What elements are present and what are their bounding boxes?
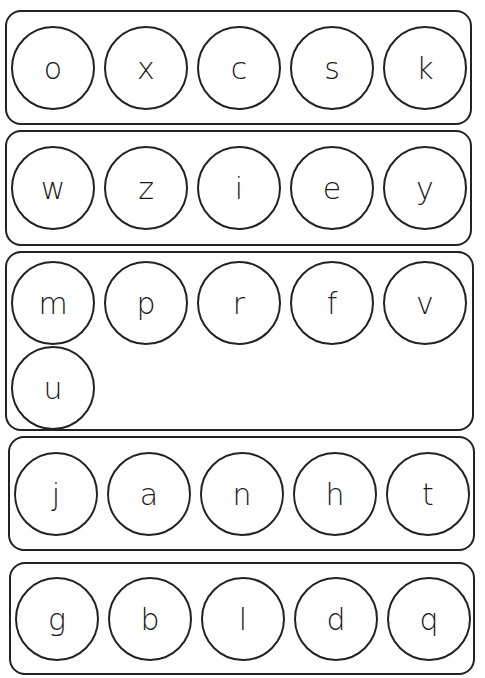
- letter-circle: o: [11, 26, 95, 110]
- letter-label: c: [231, 54, 248, 84]
- letter-circle: f: [290, 261, 374, 345]
- letter-circle: r: [197, 261, 281, 345]
- letter-label: e: [323, 174, 341, 204]
- letter-label: y: [416, 174, 434, 204]
- letter-circle: p: [104, 261, 188, 345]
- letter-circle: z: [104, 146, 188, 230]
- letter-group-2: wziey: [5, 130, 472, 246]
- letter-label: d: [326, 605, 345, 635]
- letter-circle: w: [11, 146, 95, 230]
- letter-circle: j: [14, 452, 98, 536]
- letter-circle: m: [11, 261, 95, 345]
- letter-label: z: [138, 174, 154, 204]
- letter-label: r: [233, 289, 245, 319]
- letter-circle: d: [294, 577, 378, 661]
- letter-label: o: [44, 54, 62, 84]
- letter-label: p: [136, 289, 155, 319]
- letter-label: q: [419, 605, 438, 635]
- letter-circle: l: [201, 577, 285, 661]
- letter-label: l: [239, 605, 247, 635]
- letter-circle: k: [383, 26, 467, 110]
- letter-group-5: gbldq: [9, 562, 475, 675]
- letter-circle: g: [15, 577, 99, 661]
- letter-circle: v: [383, 261, 467, 345]
- letter-label: b: [140, 605, 159, 635]
- letter-circle: q: [387, 577, 471, 661]
- letter-circle: a: [107, 452, 191, 536]
- letter-label: s: [324, 54, 340, 84]
- letter-circle: c: [197, 26, 281, 110]
- letter-circle: s: [290, 26, 374, 110]
- letter-label: j: [52, 480, 60, 510]
- letter-group-1: oxcsk: [5, 10, 472, 125]
- letter-circle: y: [383, 146, 467, 230]
- letter-label: t: [422, 480, 434, 510]
- letter-group-3: mprfvu: [5, 251, 474, 431]
- letter-label: k: [416, 54, 433, 84]
- letter-label: f: [327, 289, 338, 319]
- letter-label: h: [325, 480, 344, 510]
- letter-label: x: [137, 54, 155, 84]
- letter-circle: n: [200, 452, 284, 536]
- letter-label: u: [43, 374, 62, 404]
- letter-circle: e: [290, 146, 374, 230]
- letter-group-4: janht: [8, 436, 475, 551]
- letter-label: g: [48, 605, 66, 635]
- letter-circle: i: [197, 146, 281, 230]
- letter-label: w: [41, 174, 66, 204]
- letter-circle: h: [293, 452, 377, 536]
- letter-label: i: [235, 174, 243, 204]
- letter-circle: u: [11, 346, 95, 430]
- letter-label: v: [416, 289, 434, 319]
- letter-circle: b: [108, 577, 192, 661]
- letter-label: a: [140, 480, 158, 510]
- letter-circle: t: [386, 452, 470, 536]
- letter-label: n: [232, 480, 251, 510]
- letter-circle: x: [104, 26, 188, 110]
- letter-label: m: [38, 289, 67, 319]
